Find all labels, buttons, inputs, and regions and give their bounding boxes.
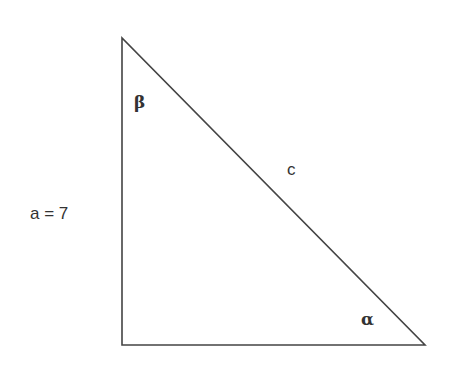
side-a-label: a = 7 (30, 204, 68, 223)
hypotenuse-label: c (287, 160, 296, 179)
right-triangle (122, 38, 425, 345)
angle-alpha-label: α (361, 309, 374, 329)
triangle-diagram: a = 7 c β α (0, 0, 451, 387)
angle-beta-label: β (134, 92, 145, 112)
